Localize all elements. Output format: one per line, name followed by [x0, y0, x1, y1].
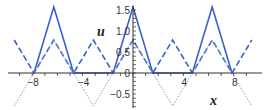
x-tick-label: 8: [232, 77, 238, 88]
x-tick-label: 4: [182, 77, 188, 88]
y-tick-label: 0.5: [116, 47, 130, 58]
axes: −8−448−0.500.51.01.5xu: [8, 5, 262, 108]
x-tick-label: −4: [78, 77, 90, 88]
y-axis-label: u: [97, 24, 105, 39]
y-tick-label: −0.5: [110, 89, 130, 100]
x-axis-label: x: [209, 93, 217, 108]
chart: −8−448−0.500.51.01.5xu: [0, 0, 268, 110]
x-tick-label: −8: [27, 77, 39, 88]
plot-area: −8−448−0.500.51.01.5xu: [0, 0, 268, 110]
y-tick-label: 1.0: [116, 26, 130, 37]
y-tick-label: 1.5: [116, 5, 130, 16]
y-tick-label: 0: [124, 68, 130, 79]
